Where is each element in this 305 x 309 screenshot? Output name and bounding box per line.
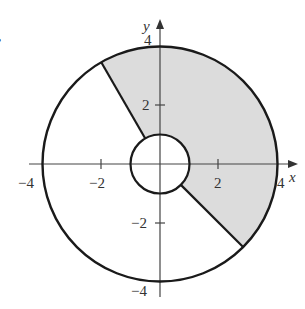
problem-marker: . <box>0 22 2 47</box>
x-tick-label: 4 <box>277 175 285 191</box>
x-axis-label: x <box>288 169 296 185</box>
polar-region-diagram: . y x −4 −2 2 4 4 2 −2 −4 <box>0 0 305 309</box>
shaded-region <box>101 47 277 248</box>
y-tick-label: −2 <box>131 215 147 231</box>
y-tick-label: 4 <box>144 32 152 48</box>
y-tick-label: 2 <box>142 97 150 113</box>
x-tick-label: 2 <box>214 175 222 191</box>
y-tick-label: −4 <box>131 283 147 299</box>
x-tick-label: −4 <box>18 175 34 191</box>
x-axis-arrow-icon <box>288 160 298 168</box>
y-axis-arrow-icon <box>156 19 164 29</box>
x-tick-label: −2 <box>89 175 105 191</box>
